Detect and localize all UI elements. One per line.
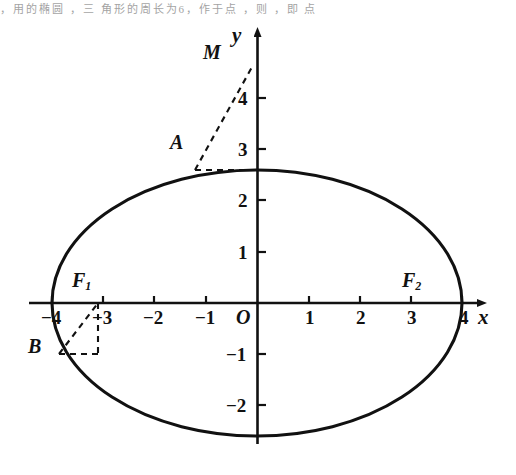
x-tick-label-4: 4	[459, 308, 469, 327]
point-label-F1-letter: F	[72, 269, 85, 291]
point-label-B: B	[28, 336, 41, 356]
point-label-M: M	[203, 42, 221, 62]
point-label-A: A	[170, 132, 183, 152]
point-label-F1: F1	[72, 270, 91, 292]
figure-canvas: ，用的椭圆 ，三 角形的周长为6，作于点 ，则 ，即 点	[0, 0, 516, 475]
point-label-F2-letter: F	[402, 269, 415, 291]
y-axis-label: y	[232, 25, 241, 46]
point-label-F1-subscript: 1	[85, 279, 91, 293]
y-tick-label--1: −1	[226, 345, 246, 364]
x-tick-label--3: −3	[92, 308, 112, 327]
origin-label: O	[236, 307, 250, 327]
y-tick-label-2: 2	[238, 191, 248, 210]
x-tick-label--4: −4	[41, 308, 61, 327]
y-tick-label-3: 3	[238, 140, 248, 159]
point-label-F2-subscript: 2	[415, 279, 421, 293]
y-tick-label--2: −2	[226, 396, 246, 415]
x-tick-label-3: 3	[407, 308, 417, 327]
x-axis-label: x	[478, 307, 489, 328]
ellipse-plot-svg	[0, 0, 516, 475]
x-tick-label--1: −1	[195, 308, 215, 327]
x-tick-label--2: −2	[143, 308, 163, 327]
y-tick-label-4: 4	[238, 89, 248, 108]
y-tick-label-1: 1	[238, 243, 248, 262]
x-tick-label-2: 2	[356, 308, 366, 327]
point-label-F2: F2	[402, 270, 421, 292]
x-tick-label-1: 1	[305, 308, 315, 327]
